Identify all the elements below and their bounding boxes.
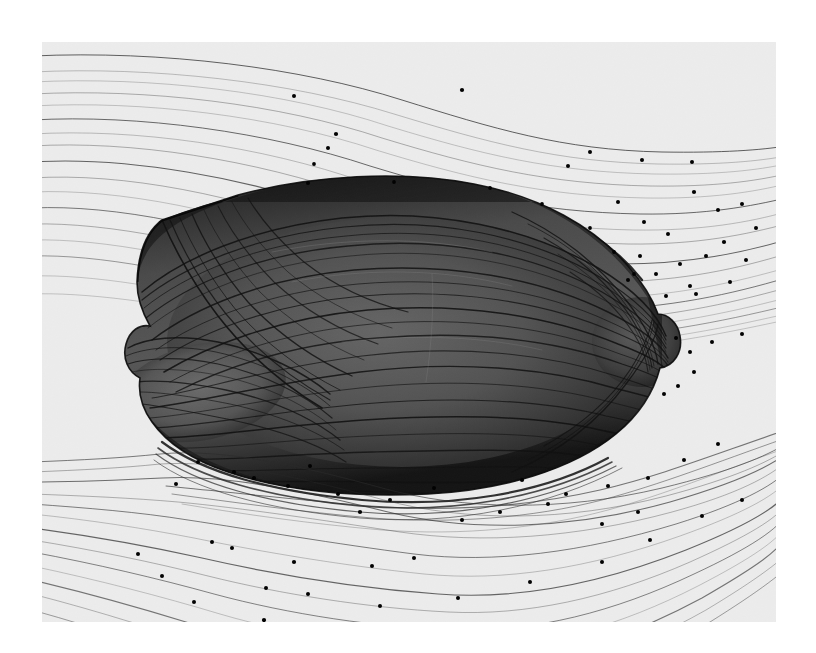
paper-grain-overlay — [42, 42, 776, 622]
figure-caption — [0, 0, 1, 1]
flow-visualization-canvas — [42, 42, 776, 622]
figure-page — [0, 0, 816, 653]
figure-title — [0, 0, 1, 1]
flow-visualization-svg — [42, 42, 776, 622]
